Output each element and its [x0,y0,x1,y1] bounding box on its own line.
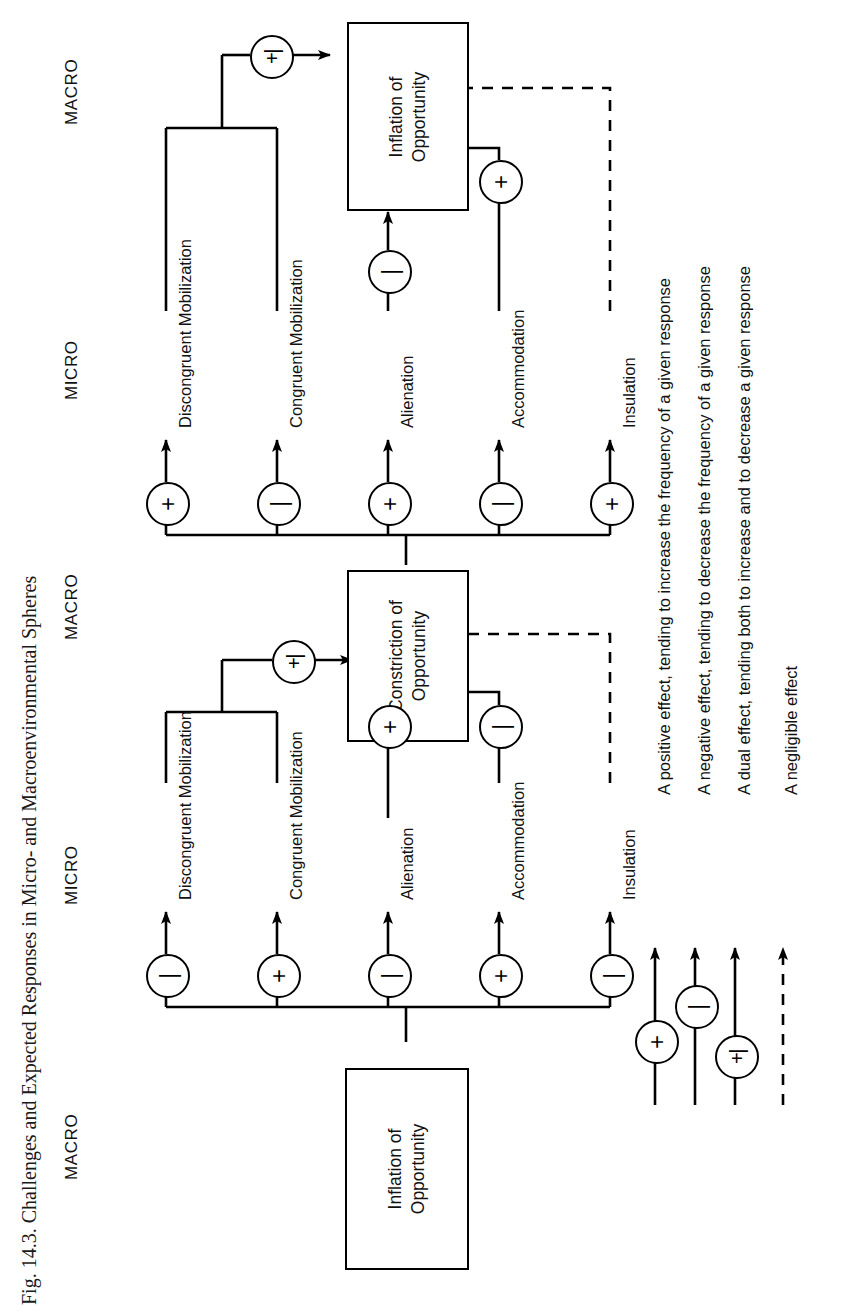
sign-t-insulation: + [590,482,634,526]
sign-glyph: + [489,175,513,189]
resp-b-discongruent: Discongruent Mobilization [176,711,195,900]
box-top-line1: Inflation of [386,76,406,157]
sign-t-alienation: + [368,482,412,526]
sign-glyph: + [378,497,402,511]
sign-b-accommodation-to-constriction: | [479,705,523,749]
box-bottom-line2: Opportunity [408,1124,428,1214]
resp-b-accommodation: Accommodation [509,782,528,900]
legend-label-positive: A positive effect, tending to increase t… [655,278,674,795]
sign-b-accommodation: + [479,954,523,998]
resp-t-alienation: Alienation [398,356,417,428]
sign-glyph: + [489,969,513,983]
resp-t-congruent: Congruent Mobilization [287,259,306,428]
col-macro-3: MACRO [62,59,82,125]
col-micro-1: MICRO [62,845,82,905]
sign-t-accommodation-to-inflation: + [479,160,523,204]
sign-glyph: | [489,501,513,507]
sign-b-alienation-to-constriction: + [368,705,412,749]
box-mid-line1: Constriction of [386,600,406,712]
resp-t-discongruent: Discongruent Mobilization [176,239,195,428]
sign-b-insulation: | [590,954,634,998]
sign-glyph: +| [262,50,282,64]
col-macro-1: MACRO [62,1114,82,1180]
sign-t-discongruent: + [146,482,190,526]
resp-b-congruent: Congruent Mobilization [287,731,306,900]
box-bottom-line1: Inflation of [385,1129,405,1210]
legend-label-negative: A negative effect, tending to decrease t… [695,266,714,795]
sign-b-alienation: | [368,954,412,998]
figure-caption-portrait: Fig. 14.3. Challenges and Expected Respo… [18,576,41,1305]
sign-b-mobilization-dual: +| [272,640,316,684]
col-micro-2: MICRO [62,340,82,400]
sign-glyph: | [378,269,402,275]
resp-b-insulation: Insulation [620,829,639,900]
box-inflation-opportunity-top: Inflation of Opportunity [347,22,469,211]
legend-label-dual: A dual effect, tending both to increase … [735,266,754,795]
sign-glyph: +| [727,1050,747,1064]
sign-glyph: | [378,973,402,979]
sign-glyph: + [267,969,291,983]
sign-t-congruent: | [257,482,301,526]
sign-glyph: | [489,724,513,730]
sign-glyph: +| [284,655,304,669]
sign-glyph: | [156,973,180,979]
sign-glyph: | [600,973,624,979]
sign-glyph: + [645,1035,669,1049]
legend-label-negligible: A negligible effect [782,666,801,795]
figure-portrait: Fig. 14.3. Challenges and Expected Respo… [0,0,861,1312]
resp-t-accommodation: Accommodation [509,310,528,428]
sign-t-alienation-to-inflation: | [368,250,412,294]
sign-glyph: + [600,497,624,511]
sign-t-accommodation: | [479,482,523,526]
resp-b-alienation: Alienation [398,828,417,900]
sign-glyph: + [156,497,180,511]
sign-t-mobilization-dual: +| [250,35,294,79]
sign-b-congruent: + [257,954,301,998]
box-top-line2: Opportunity [409,71,429,161]
box-mid-line2: Opportunity [409,611,429,701]
col-macro-2: MACRO [62,574,82,640]
sign-b-discongruent: | [146,954,190,998]
legend-symbol-positive: + [635,1020,679,1064]
sign-glyph: | [267,501,291,507]
legend-symbol-dual: +| [715,1035,759,1079]
sign-glyph: | [685,1004,709,1010]
resp-t-insulation: Insulation [620,357,639,428]
sign-glyph: + [378,720,402,734]
legend-symbol-negative: | [675,985,719,1029]
box-inflation-opportunity-bottom: Inflation of Opportunity [345,1068,469,1270]
